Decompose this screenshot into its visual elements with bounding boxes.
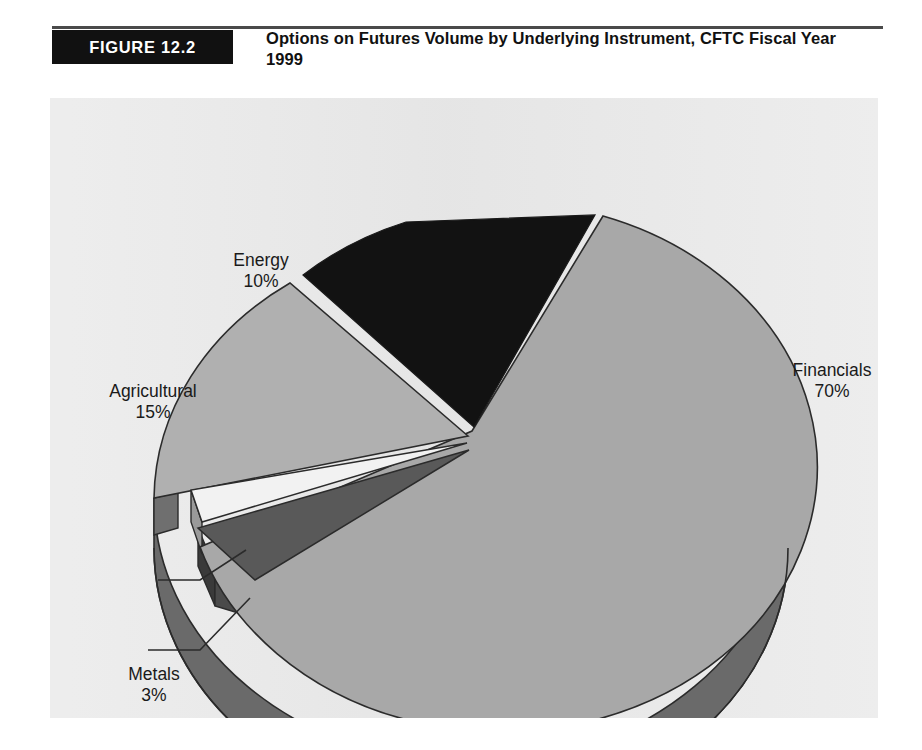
- chart-panel: Energy 10% Agricultural 15% Financials 7…: [50, 98, 878, 718]
- pie-label-energy: Energy 10%: [205, 250, 317, 292]
- pie-label-financials: Financials 70%: [762, 360, 878, 402]
- pie-label-financials-name: Financials: [762, 360, 878, 381]
- pie-label-financials-value: 70%: [762, 381, 878, 402]
- pie-label-metals: Metals 3%: [98, 664, 210, 706]
- pie-label-agricultural-value: 15%: [78, 402, 228, 423]
- pie-label-metals-name: Metals: [98, 664, 210, 685]
- pie-label-energy-value: 10%: [205, 271, 317, 292]
- figure-number-badge: FIGURE 12.2: [52, 30, 233, 64]
- pie-label-agricultural: Agricultural 15%: [78, 381, 228, 423]
- slice-side-agricultural: [154, 492, 178, 535]
- figure-number-label: FIGURE 12.2: [89, 38, 196, 57]
- figure-page: FIGURE 12.2 Options on Futures Volume by…: [0, 0, 922, 750]
- figure-title: Options on Futures Volume by Underlying …: [266, 28, 866, 70]
- pie-label-metals-value: 3%: [98, 685, 210, 706]
- pie-label-agricultural-name: Agricultural: [78, 381, 228, 402]
- pie-label-energy-name: Energy: [205, 250, 317, 271]
